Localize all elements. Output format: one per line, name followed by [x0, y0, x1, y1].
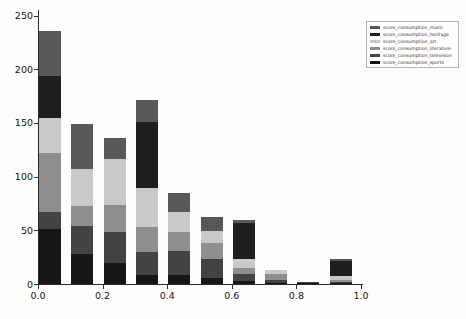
- bar-segment-sports: [297, 283, 319, 284]
- bar-segment-literature: [71, 206, 93, 226]
- bar-segment-heritage: [233, 223, 255, 260]
- bar-segment-music: [71, 124, 93, 169]
- x-axis-tick-label: 0.4: [152, 291, 182, 301]
- bar-segment-heritage: [330, 261, 352, 276]
- bar-segment-sports: [233, 281, 255, 284]
- y-axis-tick-label: 0: [7, 280, 33, 289]
- bar-segment-sports: [104, 263, 126, 284]
- legend: score_consumption_musicscore_consumption…: [366, 21, 459, 68]
- bar-segment-television: [201, 259, 223, 277]
- y-axis-tick: [34, 123, 38, 124]
- y-axis-tick-label: 200: [7, 65, 33, 74]
- bar-segment-television: [233, 274, 255, 280]
- bar-segment-television: [104, 232, 126, 262]
- bar-segment-literature: [136, 227, 158, 252]
- y-axis-tick-label: 100: [7, 172, 33, 181]
- legend-item: score_consumption_television: [370, 52, 456, 59]
- bar-segment-music: [330, 259, 352, 261]
- x-axis-tick: [103, 285, 104, 289]
- bar-segment-television: [330, 282, 352, 283]
- legend-swatch-icon: [370, 26, 380, 29]
- legend-item: score_consumption_sports: [370, 59, 456, 66]
- legend-swatch-icon: [370, 40, 380, 43]
- bar-segment-art: [168, 212, 190, 232]
- legend-label: score_consumption_sports: [383, 60, 444, 65]
- bar-segment-literature: [39, 153, 61, 212]
- y-axis-tick-label: 250: [7, 11, 33, 20]
- bar-segment-television: [71, 226, 93, 254]
- legend-label: score_consumption_literature: [383, 46, 451, 51]
- bar-segment-television: [168, 251, 190, 276]
- legend-label: score_consumption_heritage: [383, 32, 449, 37]
- x-axis-tick-label: 0.0: [23, 291, 53, 301]
- x-axis-tick-label: 0.6: [217, 291, 247, 301]
- bar-segment-music: [168, 193, 190, 212]
- legend-label: score_consumption_television: [383, 53, 452, 58]
- bar-segment-television: [136, 252, 158, 276]
- stacked-bar-chart-figure: 0501001502002500.00.20.40.60.81.0 score_…: [0, 0, 466, 319]
- bar-segment-literature: [104, 205, 126, 233]
- x-axis-spine: [38, 284, 363, 285]
- bar-segment-sports: [330, 283, 352, 284]
- y-axis-tick: [34, 230, 38, 231]
- x-axis-tick-label: 0.8: [281, 291, 311, 301]
- bar-segment-art: [233, 259, 255, 268]
- y-axis-tick-label: 50: [7, 226, 33, 235]
- bar-segment-sports: [265, 283, 287, 284]
- bar-segment-literature: [233, 268, 255, 274]
- legend-swatch-icon: [370, 61, 380, 64]
- bar-segment-heritage: [136, 122, 158, 189]
- legend-label: score_consumption_art: [383, 39, 436, 44]
- bar-segment-sports: [71, 254, 93, 284]
- bar-segment-music: [201, 217, 223, 231]
- legend-swatch-icon: [370, 33, 380, 36]
- bar-segment-heritage: [39, 76, 61, 118]
- x-axis-tick-label: 1.0: [346, 291, 376, 301]
- legend-item: score_consumption_music: [370, 24, 456, 31]
- bar-segment-art: [330, 276, 352, 279]
- bar-segment-music: [39, 31, 61, 76]
- x-axis-tick: [296, 285, 297, 289]
- x-axis-tick: [38, 285, 39, 289]
- legend-swatch-icon: [370, 47, 380, 50]
- legend-label: score_consumption_music: [383, 25, 443, 30]
- bar-segment-music: [136, 100, 158, 121]
- bar-segment-sports: [136, 275, 158, 284]
- bar-segment-art: [71, 169, 93, 206]
- legend-item: score_consumption_art: [370, 38, 456, 45]
- bar-segment-sports: [39, 229, 61, 284]
- x-axis-tick: [232, 285, 233, 289]
- y-axis-tick-label: 150: [7, 118, 33, 127]
- bar-segment-music: [233, 220, 255, 223]
- bar-segment-music: [104, 138, 126, 159]
- bar-segment-television: [39, 212, 61, 229]
- bar-segment-literature: [265, 274, 287, 279]
- legend-swatch-icon: [370, 54, 380, 57]
- y-axis-tick: [34, 16, 38, 17]
- y-axis-tick: [34, 177, 38, 178]
- bar-segment-literature: [168, 232, 190, 250]
- bar-segment-sports: [168, 275, 190, 284]
- legend-item: score_consumption_heritage: [370, 31, 456, 38]
- legend-item: score_consumption_literature: [370, 45, 456, 52]
- y-axis-tick: [34, 69, 38, 70]
- bar-segment-literature: [330, 280, 352, 282]
- bar-segment-television: [297, 282, 319, 283]
- bar-segment-sports: [201, 278, 223, 284]
- bar-segment-literature: [201, 243, 223, 259]
- bar-segment-art: [201, 231, 223, 243]
- bar-segment-art: [265, 270, 287, 274]
- bar-segment-art: [136, 188, 158, 227]
- x-axis-tick: [167, 285, 168, 289]
- x-axis-tick-label: 0.2: [88, 291, 118, 301]
- bar-segment-art: [39, 118, 61, 153]
- bar-segment-television: [265, 280, 287, 283]
- bar-segment-art: [104, 159, 126, 204]
- x-axis-tick: [361, 285, 362, 289]
